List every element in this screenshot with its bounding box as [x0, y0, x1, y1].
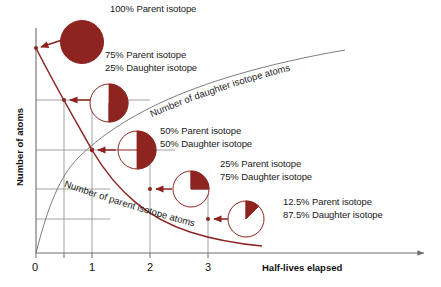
- annotation-25-line-1: 25% Parent isotope: [220, 158, 312, 171]
- point-parent-4: [206, 217, 210, 221]
- pie-chart-100-percent: [61, 21, 104, 64]
- x-tick-label-0: 0: [32, 261, 38, 273]
- x-axis-title: Half-lives elapsed: [262, 262, 342, 273]
- annotation-75-percent: 75% Parent isotope 25% Daughter isotope: [105, 49, 197, 74]
- point-parent-3: [148, 187, 152, 191]
- annotation-12-5-percent: 12.5% Parent isotope 87.5% Daughter isot…: [283, 196, 383, 221]
- annotation-12-5-line-2: 87.5% Daughter isotope: [283, 209, 383, 222]
- pie-0-parent-slice: [61, 21, 104, 64]
- pie-chart-50-percent: [118, 131, 156, 169]
- decay-curve-figure: Number of daughter isotope atoms Number …: [0, 0, 441, 287]
- pie-chart-12-5-percent: [228, 201, 264, 237]
- annotation-25-percent: 25% Parent isotope 75% Daughter isotope: [220, 158, 312, 183]
- pie-chart-25-percent: [173, 171, 209, 207]
- x-tick-label-2: 2: [147, 261, 153, 273]
- annotation-12-5-line-1: 12.5% Parent isotope: [283, 196, 383, 209]
- annotation-100-line-1: 100% Parent isotope: [110, 3, 196, 16]
- x-axis-ticks: [36, 253, 208, 258]
- pie-3-parent-slice: [191, 171, 209, 189]
- annotation-50-line-2: 50% Daughter isotope: [160, 138, 252, 151]
- x-tick-label-1: 1: [89, 261, 95, 273]
- annotation-100-percent: 100% Parent isotope: [110, 3, 196, 16]
- leader-arrow-0: [41, 40, 62, 47]
- y-axis-title: Number of atoms: [14, 108, 25, 186]
- annotation-50-percent: 50% Parent isotope 50% Daughter isotope: [160, 125, 252, 150]
- x-tick-label-3: 3: [205, 261, 211, 273]
- annotation-25-line-2: 75% Daughter isotope: [220, 171, 312, 184]
- annotation-50-line-1: 50% Parent isotope: [160, 125, 252, 138]
- annotation-75-line-1: 75% Parent isotope: [105, 49, 197, 62]
- point-parent-1: [62, 98, 66, 102]
- pie-chart-75-percent: [90, 84, 128, 122]
- point-parent-0: [34, 46, 38, 50]
- point-parent-2: [90, 148, 94, 152]
- annotation-75-line-2: 25% Daughter isotope: [105, 62, 197, 75]
